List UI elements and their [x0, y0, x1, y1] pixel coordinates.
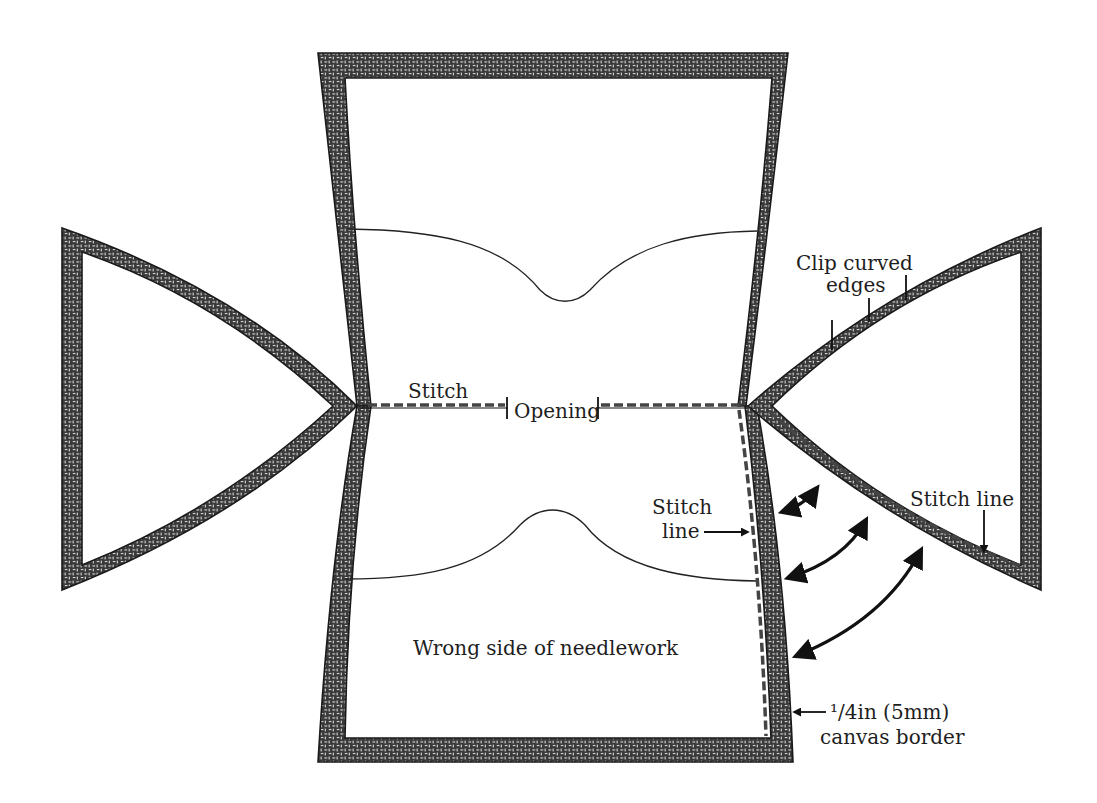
- label-stitch-line-right: Stitch line: [910, 487, 1014, 511]
- fold-arrow-2: [788, 520, 866, 578]
- label-stitch-line-left-2: line: [662, 519, 700, 543]
- label-stitch-line-left-1: Stitch: [652, 495, 712, 519]
- label-opening: Opening: [514, 399, 600, 423]
- label-stitch: Stitch: [408, 379, 468, 403]
- right-flap-band: [748, 228, 1041, 590]
- label-clip-curved-edges-1: Clip curved: [796, 251, 913, 275]
- right-flap: [748, 228, 1041, 590]
- label-clip-curved-edges-2: edges: [826, 273, 886, 297]
- label-canvas-border-1: ¹/4in (5mm): [830, 700, 949, 724]
- center-panel-top-half: [318, 53, 788, 406]
- fold-arrow-1: [782, 488, 817, 512]
- left-flap-band: [62, 228, 357, 590]
- label-canvas-border-2: canvas border: [820, 725, 965, 749]
- upper-gusset-curve: [348, 229, 757, 301]
- left-flap: [62, 228, 357, 590]
- center-panel-bottom-half: [318, 406, 793, 762]
- needlework-diagram: Clip curved edges Stitch Opening Stitch …: [0, 0, 1097, 803]
- label-wrong-side: Wrong side of needlework: [413, 636, 679, 660]
